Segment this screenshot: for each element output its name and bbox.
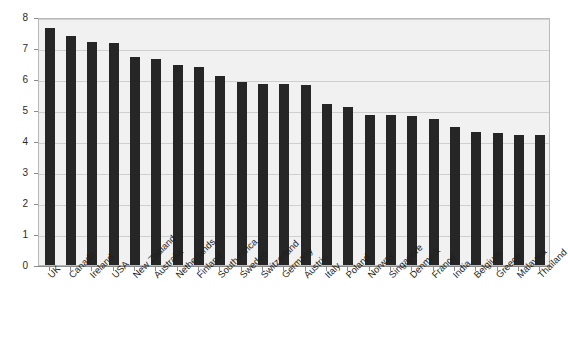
bar[interactable]	[215, 76, 225, 265]
x-tick-mark	[177, 267, 178, 271]
x-tick-mark	[241, 267, 242, 271]
bars-layer	[39, 19, 549, 265]
x-tick-mark	[134, 267, 135, 271]
y-tick-label: 3	[22, 168, 28, 178]
y-tick-label: 8	[22, 13, 28, 23]
bar[interactable]	[301, 85, 311, 265]
x-tick-mark	[283, 267, 284, 271]
bar-chart: 012345678 UKCanadaIrelandUSANew ZealandA…	[0, 0, 568, 337]
x-tick-mark	[198, 267, 199, 271]
bar[interactable]	[87, 42, 97, 265]
x-tick-mark	[518, 267, 519, 271]
bar[interactable]	[279, 84, 289, 265]
y-tick-label: 6	[22, 75, 28, 85]
bar[interactable]	[471, 132, 481, 265]
x-tick-mark	[497, 267, 498, 271]
bar[interactable]	[493, 133, 503, 265]
bar[interactable]	[109, 43, 119, 265]
x-tick-mark	[49, 267, 50, 271]
x-tick-mark	[70, 267, 71, 271]
x-tick-mark	[433, 267, 434, 271]
bar[interactable]	[151, 59, 161, 265]
bar[interactable]	[386, 115, 396, 265]
x-tick-mark	[369, 267, 370, 271]
bar[interactable]	[237, 82, 247, 265]
bar[interactable]	[365, 115, 375, 265]
x-tick-mark	[347, 267, 348, 271]
bar[interactable]	[173, 65, 183, 265]
y-tick-label: 5	[22, 106, 28, 116]
x-tick-mark	[91, 267, 92, 271]
x-tick-mark	[475, 267, 476, 271]
bar[interactable]	[258, 84, 268, 265]
x-tick-mark	[155, 267, 156, 271]
y-axis: 012345678	[0, 0, 34, 337]
x-tick-mark	[454, 267, 455, 271]
y-tick-label: 0	[22, 261, 28, 271]
bar[interactable]	[450, 127, 460, 265]
bar[interactable]	[66, 36, 76, 265]
x-tick-mark	[411, 267, 412, 271]
bar[interactable]	[429, 119, 439, 265]
bar[interactable]	[343, 107, 353, 265]
x-tick-mark	[219, 267, 220, 271]
bar[interactable]	[194, 67, 204, 265]
bar[interactable]	[514, 135, 524, 265]
x-tick-mark	[539, 267, 540, 271]
x-tick-mark	[305, 267, 306, 271]
bar[interactable]	[322, 104, 332, 265]
x-tick-mark	[113, 267, 114, 271]
x-tick-mark	[262, 267, 263, 271]
y-tick-label: 2	[22, 199, 28, 209]
x-tick-mark	[326, 267, 327, 271]
y-tick-label: 1	[22, 230, 28, 240]
x-tick-mark	[390, 267, 391, 271]
plot-area	[38, 18, 550, 266]
bar[interactable]	[130, 57, 140, 265]
y-tick-label: 7	[22, 44, 28, 54]
bar[interactable]	[45, 28, 55, 265]
y-tick-label: 4	[22, 137, 28, 147]
